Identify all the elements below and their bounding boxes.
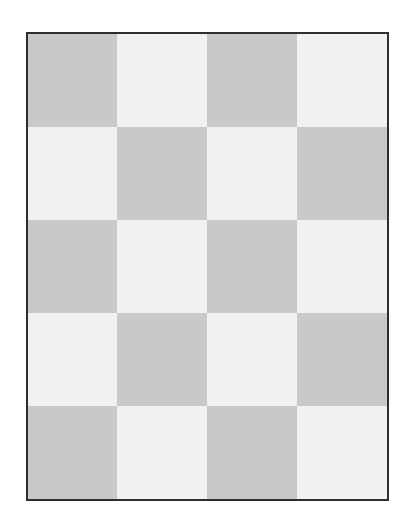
- checker-cell-light: [117, 220, 207, 313]
- checker-cell-light: [297, 406, 387, 499]
- checker-cell-light: [207, 127, 297, 220]
- checker-cell-light: [207, 313, 297, 406]
- checker-cell-light: [28, 313, 117, 406]
- checker-cell-dark: [28, 406, 117, 499]
- checkerboard-grid: [26, 32, 389, 501]
- checker-cell-dark: [28, 220, 117, 313]
- checker-cell-dark: [207, 34, 297, 127]
- checker-cell-light: [117, 34, 207, 127]
- checker-cell-dark: [297, 127, 387, 220]
- checker-cell-dark: [207, 406, 297, 499]
- checker-cell-light: [297, 220, 387, 313]
- checker-cell-light: [117, 406, 207, 499]
- checker-cell-dark: [117, 127, 207, 220]
- checker-cell-dark: [117, 313, 207, 406]
- checker-cell-dark: [207, 220, 297, 313]
- checker-cell-dark: [28, 34, 117, 127]
- checker-cell-light: [297, 34, 387, 127]
- checker-cell-light: [28, 127, 117, 220]
- checker-cell-dark: [297, 313, 387, 406]
